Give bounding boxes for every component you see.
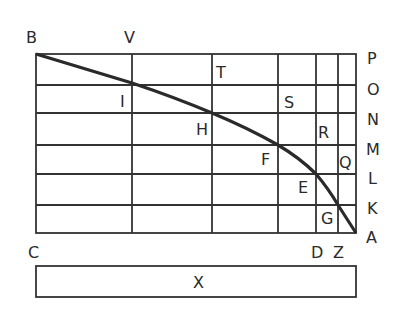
label-g: G	[321, 209, 333, 228]
label-q: Q	[339, 153, 352, 172]
grid-frame	[36, 54, 356, 233]
label-s: S	[284, 93, 294, 112]
label-v: V	[124, 28, 135, 47]
label-f: F	[261, 150, 270, 169]
label-d: D	[311, 243, 323, 262]
label-m: M	[366, 140, 380, 159]
label-e: E	[298, 178, 308, 197]
label-x: X	[193, 273, 204, 292]
label-c: C	[28, 243, 39, 262]
right-axis-labels: P O N M L K A	[366, 49, 380, 247]
label-h: H	[196, 120, 208, 139]
label-b: B	[26, 28, 37, 47]
label-r: R	[318, 123, 329, 142]
label-o: O	[367, 80, 380, 99]
grid	[36, 54, 356, 233]
curve-ba	[36, 54, 356, 233]
label-l: L	[368, 169, 377, 188]
label-n: N	[367, 110, 379, 129]
geometric-diagram: B V T I H S R F Q E G C D Z P O N M L K …	[0, 0, 405, 322]
label-i: I	[120, 92, 125, 111]
bottom-box: X	[36, 266, 356, 297]
label-k: K	[367, 199, 378, 218]
label-a: A	[366, 228, 377, 247]
label-z: Z	[333, 243, 344, 262]
label-p: P	[367, 49, 377, 68]
label-t: T	[215, 63, 226, 82]
